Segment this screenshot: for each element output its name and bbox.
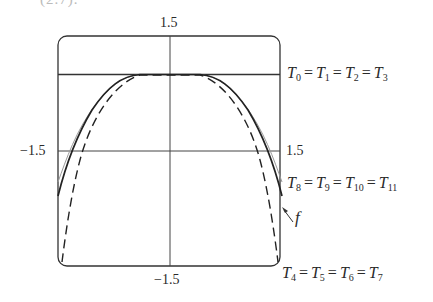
tick-top: 1.5 <box>160 15 178 31</box>
tick-right: 1.5 <box>286 143 304 159</box>
f-label: f <box>295 208 300 228</box>
tick-bottom: −1.5 <box>154 272 179 288</box>
legend-t4-t7: T4=T5=T6=T7 <box>282 264 383 283</box>
plot-area <box>0 0 433 302</box>
f-arrow-head <box>282 207 288 213</box>
legend-t8-t11: T8=T9=T10=T11 <box>287 174 397 193</box>
legend-t0-t3: T0=T1=T2=T3 <box>287 64 388 83</box>
tick-left: −1.5 <box>20 143 45 159</box>
